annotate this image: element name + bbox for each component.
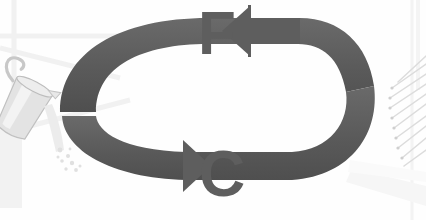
label-celsius: C: [199, 142, 244, 206]
cycle-diagram-canvas: F C: [0, 0, 426, 220]
label-fahrenheit: F: [198, 2, 235, 64]
stick-bundle: [390, 56, 426, 166]
